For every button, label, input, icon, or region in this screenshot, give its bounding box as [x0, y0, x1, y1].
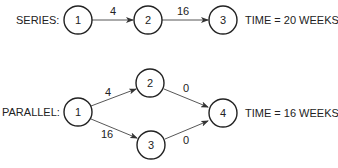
svg-text:2: 2: [147, 77, 153, 89]
svg-text:3: 3: [220, 14, 226, 26]
series-edge-1-2-weight: 4: [110, 5, 116, 17]
svg-text:3: 3: [148, 139, 154, 151]
parallel-edge-1-2-weight: 4: [105, 86, 111, 98]
parallel-edge-2-4-weight: 0: [183, 82, 189, 94]
series-result: TIME = 20 WEEKS: [245, 14, 338, 26]
parallel-edge-1-3: [91, 119, 137, 138]
series-edge-2-3-weight: 16: [177, 5, 189, 17]
svg-text:1: 1: [75, 14, 81, 26]
svg-text:2: 2: [145, 14, 151, 26]
parallel-edge-3-4-weight: 0: [183, 134, 189, 146]
svg-text:4: 4: [220, 107, 226, 119]
series-node-1: 1: [64, 6, 92, 34]
parallel-edge-1-3-weight: 16: [101, 128, 113, 140]
series-node-2: 2: [134, 6, 162, 34]
parallel-result: TIME = 16 WEEKS: [245, 107, 338, 119]
network-diagram: SERIES: 4 16 1 2 3 TIME = 20 WEEKS PARAL…: [0, 0, 338, 168]
parallel-node-1: 1: [64, 98, 92, 126]
parallel-diagram: PARALLEL: 4 16 0 0 1 2 3 4 TIME = 16 WEE…: [2, 69, 338, 159]
series-diagram: SERIES: 4 16 1 2 3 TIME = 20 WEEKS: [16, 5, 338, 34]
parallel-node-4: 4: [209, 99, 237, 127]
series-label: SERIES:: [16, 14, 59, 26]
parallel-node-2: 2: [136, 69, 164, 97]
svg-text:1: 1: [75, 106, 81, 118]
parallel-edge-1-2: [91, 89, 136, 106]
parallel-label: PARALLEL:: [2, 106, 60, 118]
parallel-node-3: 3: [137, 131, 165, 159]
series-node-3: 3: [209, 6, 237, 34]
